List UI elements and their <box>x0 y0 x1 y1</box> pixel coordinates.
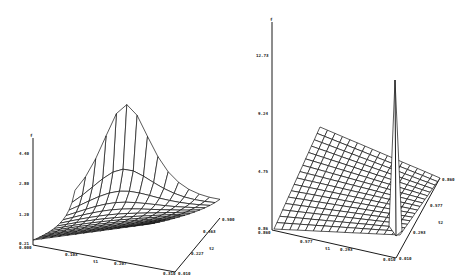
left-z-label: f <box>30 133 33 138</box>
left-x-axis <box>33 245 175 272</box>
right-surface-plot: f 12.73 9.24 4.75 0.86 0.860 0.577 t1 0.… <box>256 17 455 262</box>
right-x-tick: 0.010 <box>383 257 396 262</box>
left-wireframe-mesh <box>33 105 220 240</box>
left-y-axis-name: t2 <box>209 246 215 251</box>
right-z-label: f <box>270 17 273 22</box>
charts-canvas: f 4.40 2.80 1.20 0.21 0.000 0.103 t1 0.2… <box>0 0 470 280</box>
right-wireframe-mesh <box>274 80 440 236</box>
left-y-axis <box>175 218 220 272</box>
left-z-tick: 4.40 <box>19 151 30 156</box>
right-z-tick: 9.24 <box>258 111 269 116</box>
left-z-tick: 2.80 <box>19 181 30 186</box>
left-y-tick: 0.463 <box>203 229 216 234</box>
left-y-tick: 0.500 <box>222 217 235 222</box>
left-x-tick: 0.103 <box>65 252 78 257</box>
left-z-tick: 1.20 <box>19 212 30 217</box>
right-x-tick: 0.293 <box>340 247 353 252</box>
right-y-tick: 0.577 <box>430 203 443 208</box>
right-z-tick: 12.73 <box>256 53 269 58</box>
left-y-tick: 0.227 <box>191 251 204 256</box>
right-y-tick: 0.293 <box>413 230 426 235</box>
left-x-tick: 0.310 <box>163 271 176 276</box>
right-x-axis-name: t1 <box>325 246 331 251</box>
right-origin-label: 0.860 <box>258 230 271 235</box>
left-y-tick: 0.010 <box>178 271 191 276</box>
right-x-tick: 0.577 <box>300 239 313 244</box>
left-x-axis-name: t1 <box>93 259 99 264</box>
right-y-axis-name: t2 <box>438 220 444 225</box>
left-x-tick: 0.207 <box>114 261 127 266</box>
right-y-tick: 0.860 <box>442 177 455 182</box>
right-y-tick: 0.010 <box>399 256 412 261</box>
left-origin-label: 0.000 <box>19 245 32 250</box>
right-z-tick: 4.75 <box>258 169 269 174</box>
left-surface-plot: f 4.40 2.80 1.20 0.21 0.000 0.103 t1 0.2… <box>19 105 235 276</box>
